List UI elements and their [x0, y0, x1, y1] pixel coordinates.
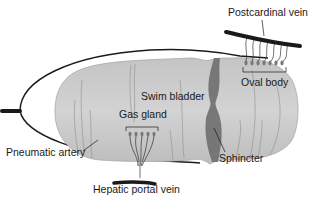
- postcardinal-vein-vessel: [226, 32, 300, 46]
- label-sphincter: Sphincter: [219, 153, 263, 164]
- label-postcardinal-vein: Postcardinal vein: [228, 7, 308, 18]
- label-swim-bladder: Swim bladder: [141, 91, 205, 102]
- label-pneumatic-artery: Pneumatic artery: [6, 147, 85, 158]
- label-hepatic-portal-vein: Hepatic portal vein: [93, 184, 180, 195]
- swim-bladder-diagram: Postcardinal vein Swim bladder Oval body…: [0, 0, 312, 201]
- label-gas-gland: Gas gland: [119, 109, 167, 120]
- label-oval-body: Oval body: [241, 77, 288, 88]
